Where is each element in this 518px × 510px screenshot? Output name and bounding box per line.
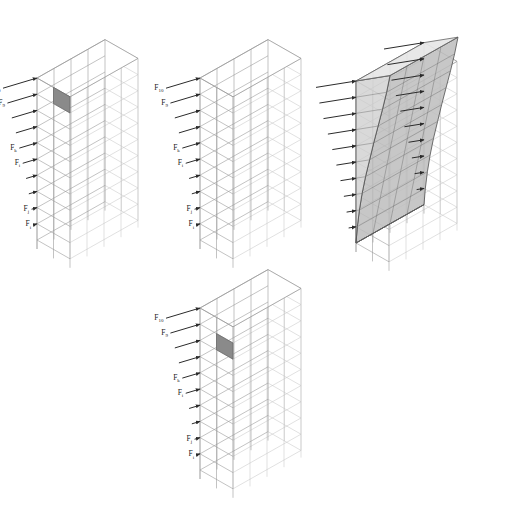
- force-label: F9: [161, 98, 168, 108]
- deflection-arrow-left: [323, 113, 356, 118]
- force-label: Fi: [189, 219, 195, 229]
- roof-slab: [37, 40, 138, 97]
- deflection-arrow-left: [328, 130, 356, 135]
- force-label: Fi: [178, 158, 184, 168]
- force-arrow: [192, 421, 200, 423]
- force-label: Fj: [186, 204, 192, 214]
- figure-svg: F10F9FkFiFjFiF10F9FkFiFjFiF10F9FkFiFjFi: [0, 0, 518, 510]
- force-label: F9: [0, 98, 5, 108]
- force-arrow: [175, 340, 200, 348]
- force-arrow: [170, 94, 200, 103]
- force-arrow: [195, 208, 200, 210]
- force-label-subscript: 9: [165, 333, 168, 338]
- force-arrow: [3, 78, 37, 88]
- force-label-subscript: 10: [0, 88, 1, 93]
- force-label: Fi: [26, 219, 32, 229]
- force-label-subscript: j: [27, 209, 29, 214]
- force-label: F10: [154, 313, 164, 323]
- force-label: Fi: [189, 449, 195, 459]
- deflection-arrow-left: [319, 97, 356, 103]
- deflection-arrow-left: [347, 211, 356, 213]
- force-label-subscript: k: [177, 378, 180, 383]
- force-arrow: [166, 78, 200, 88]
- force-arrow: [189, 175, 200, 178]
- force-arrow: [19, 143, 37, 148]
- force-label-subscript: j: [190, 209, 192, 214]
- force-arrow: [192, 191, 200, 193]
- force-label-subscript: i: [193, 225, 195, 230]
- force-label: F9: [161, 328, 168, 338]
- force-arrow: [16, 127, 37, 133]
- force-arrow: [195, 438, 200, 440]
- force-label-subscript: 10: [159, 318, 165, 323]
- figure-canvas: F10F9FkFiFjFiF10F9FkFiFjFiF10F9FkFiFjFi: [0, 0, 518, 510]
- deflection-arrow-left: [340, 178, 356, 180]
- force-arrow: [29, 191, 37, 193]
- force-label-subscript: i: [193, 455, 195, 460]
- force-label: F10: [154, 83, 164, 93]
- force-arrow: [186, 389, 200, 393]
- deflection-arrow-left: [332, 146, 356, 150]
- force-arrow: [170, 324, 200, 333]
- deflection-arrow-left: [344, 194, 356, 196]
- roof-slab: [200, 40, 301, 97]
- force-arrow: [175, 110, 200, 118]
- force-arrow: [179, 357, 200, 363]
- infill-panel: [217, 334, 234, 360]
- force-arrow: [23, 159, 37, 163]
- frame-top-middle: F10F9FkFiFjFi: [154, 40, 301, 268]
- force-label-subscript: i: [30, 225, 32, 230]
- deflection-arrow-left: [349, 227, 356, 228]
- force-label: Fk: [173, 143, 180, 153]
- force-arrow: [182, 373, 200, 378]
- force-arrow: [7, 94, 37, 103]
- building-scene: F10F9FkFiFjFiF10F9FkFiFjFiF10F9FkFiFjFi: [0, 37, 458, 498]
- force-label: F10: [0, 83, 1, 93]
- force-label-subscript: k: [177, 148, 180, 153]
- force-label-subscript: i: [19, 163, 21, 168]
- force-label-subscript: 9: [165, 103, 168, 108]
- frame-top-right: [316, 37, 458, 271]
- force-arrow: [32, 208, 37, 210]
- force-arrow: [186, 159, 200, 163]
- force-label-subscript: 9: [2, 103, 5, 108]
- force-arrow: [26, 175, 37, 178]
- force-label: Fj: [23, 204, 29, 214]
- force-label-subscript: 10: [159, 88, 165, 93]
- deflection-arrow-left: [316, 81, 356, 87]
- force-label: Fi: [178, 388, 184, 398]
- force-label: Fi: [15, 158, 21, 168]
- force-label: Fk: [10, 143, 17, 153]
- force-label-subscript: i: [182, 163, 184, 168]
- force-arrow: [182, 143, 200, 148]
- force-arrow: [197, 454, 200, 455]
- force-label-subscript: j: [190, 439, 192, 444]
- force-arrow: [179, 127, 200, 133]
- force-label: Fk: [173, 373, 180, 383]
- force-arrow: [189, 405, 200, 408]
- force-label-subscript: i: [182, 393, 184, 398]
- force-arrow: [34, 224, 37, 225]
- force-arrow: [12, 110, 37, 118]
- frame-top-left: F10F9FkFiFjFi: [0, 40, 138, 268]
- frame-bottom-middle: F10F9FkFiFjFi: [154, 270, 301, 498]
- force-label-subscript: k: [14, 148, 17, 153]
- deformed-shape: [356, 37, 458, 243]
- force-arrow: [166, 308, 200, 318]
- roof-slab: [200, 270, 301, 327]
- deflection-arrow-left: [336, 162, 356, 165]
- force-arrow: [197, 224, 200, 225]
- force-label: Fj: [186, 434, 192, 444]
